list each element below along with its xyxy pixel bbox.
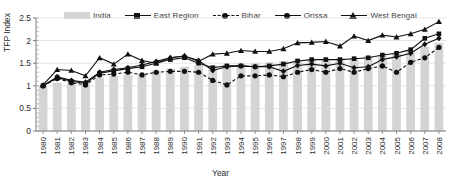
plot-area: 00.511.522.51980198119821983198419851986… [0, 0, 453, 184]
marker-circle [182, 69, 187, 74]
marker-circle [323, 70, 328, 75]
marker-circle [238, 73, 243, 78]
bar-2008 [435, 43, 444, 131]
marker-square [422, 36, 427, 41]
marker-square [366, 55, 371, 60]
x-tick-label-1985: 1985 [110, 136, 119, 154]
bar-1988 [152, 71, 161, 131]
y-tick-label-5: 2.5 [19, 13, 31, 23]
x-tick-label-1995: 1995 [251, 136, 260, 154]
marker-circle [380, 63, 385, 68]
marker-triangle [125, 51, 131, 56]
bar-1989 [166, 69, 175, 131]
marker-circle [295, 70, 300, 75]
plot-svg: 00.511.522.51980198119821983198419851986… [0, 0, 453, 184]
x-tick-label-1997: 1997 [279, 136, 288, 154]
y-tick-label-4: 2 [26, 36, 31, 46]
x-tick-label-1989: 1989 [166, 136, 175, 154]
x-tick-label-2007: 2007 [421, 136, 430, 154]
marker-circle [408, 60, 413, 65]
x-tick-label-1986: 1986 [124, 136, 133, 154]
marker-circle [253, 73, 258, 78]
y-tick-label-1: 0.5 [19, 103, 31, 113]
marker-diamond [422, 41, 427, 47]
marker-circle [337, 66, 342, 71]
marker-circle [309, 67, 314, 72]
bar-1992 [208, 65, 217, 131]
marker-triangle [139, 58, 145, 63]
x-tick-label-1987: 1987 [138, 136, 147, 154]
marker-circle [224, 82, 229, 87]
tfp-index-chart: India East Region Bihar Orissa West Beng… [0, 0, 453, 184]
x-tick-label-1993: 1993 [223, 136, 232, 154]
marker-circle [196, 70, 201, 75]
bar-1986 [124, 75, 133, 131]
marker-circle [436, 45, 441, 50]
x-tick-label-1994: 1994 [237, 136, 246, 154]
x-tick-label-2005: 2005 [393, 136, 402, 154]
marker-circle [394, 70, 399, 75]
x-tick-label-1983: 1983 [81, 136, 90, 154]
marker-square [281, 62, 286, 67]
x-tick-label-1984: 1984 [96, 136, 105, 154]
marker-circle [281, 74, 286, 79]
x-tick-label-1988: 1988 [152, 136, 161, 154]
marker-square [324, 57, 329, 62]
marker-circle [168, 69, 173, 74]
marker-circle [139, 72, 144, 77]
marker-triangle [97, 55, 103, 60]
marker-circle [422, 55, 427, 60]
marker-circle [154, 70, 159, 75]
bar-1991 [194, 65, 203, 131]
bar-1981 [53, 83, 62, 131]
bar-1980 [39, 86, 48, 131]
x-tick-label-1992: 1992 [209, 136, 218, 154]
x-tick-label-1982: 1982 [67, 136, 76, 154]
bar-1984 [95, 78, 104, 131]
x-tick-label-2002: 2002 [350, 136, 359, 154]
marker-square [352, 56, 357, 61]
bar-1983 [81, 81, 90, 131]
bar-1987 [138, 74, 147, 131]
bar-1982 [67, 83, 76, 131]
x-tick-label-2008: 2008 [435, 136, 444, 154]
y-tick-label-2: 1 [26, 81, 31, 91]
y-tick-label-3: 1.5 [19, 58, 31, 68]
x-tick-label-1999: 1999 [308, 136, 317, 154]
bar-2000 [321, 59, 330, 131]
y-tick-label-0: 0 [26, 126, 31, 136]
bar-2005 [392, 53, 401, 131]
bar-1985 [109, 76, 118, 131]
x-tick-label-2000: 2000 [322, 136, 331, 154]
marker-triangle [351, 33, 357, 38]
x-tick-label-2004: 2004 [378, 136, 387, 154]
marker-triangle [280, 46, 286, 51]
marker-triangle [436, 19, 442, 24]
marker-triangle [422, 26, 428, 31]
x-tick-label-2001: 2001 [336, 136, 345, 154]
marker-circle [210, 78, 215, 83]
x-tick-label-1991: 1991 [195, 136, 204, 154]
bar-1993 [222, 65, 231, 131]
bar-1990 [180, 67, 189, 131]
x-tick-label-2006: 2006 [407, 136, 416, 154]
x-tick-label-1990: 1990 [180, 136, 189, 154]
x-tick-label-2003: 2003 [364, 136, 373, 154]
x-tick-label-1998: 1998 [294, 136, 303, 154]
x-tick-label-1996: 1996 [265, 136, 274, 154]
marker-circle [267, 72, 272, 77]
x-tick-label-1980: 1980 [39, 136, 48, 154]
x-tick-label-1981: 1981 [53, 136, 62, 154]
